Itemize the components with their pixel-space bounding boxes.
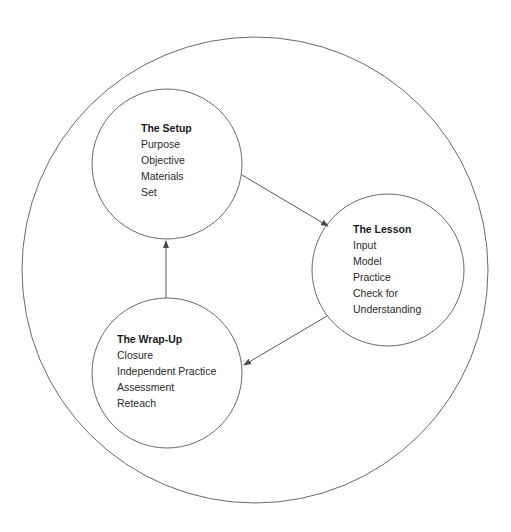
wrapup-item: Closure (117, 347, 216, 363)
wrapup-item: Assessment (117, 379, 216, 395)
wrapup-item: Independent Practice (117, 363, 216, 379)
setup-item: Objective (141, 152, 192, 168)
lesson-item: Practice (353, 269, 421, 285)
setup-item: Purpose (141, 136, 192, 152)
lesson-title: The Lesson (353, 221, 421, 237)
lesson-item: Check for (353, 285, 421, 301)
cycle-diagram (0, 0, 511, 532)
arrow-setup-to-lesson (242, 175, 328, 226)
lesson-item: Input (353, 237, 421, 253)
wrapup-title: The Wrap-Up (117, 331, 216, 347)
lesson-item: Understanding (353, 301, 421, 317)
wrapup-item: Reteach (117, 395, 216, 411)
lesson-node: The Lesson Input Model Practice Check fo… (353, 221, 421, 317)
setup-item: Materials (141, 168, 192, 184)
setup-node: The Setup Purpose Objective Materials Se… (141, 120, 192, 200)
arrow-lesson-to-wrapup (244, 316, 327, 365)
setup-title: The Setup (141, 120, 192, 136)
setup-item: Set (141, 184, 192, 200)
wrapup-node: The Wrap-Up Closure Independent Practice… (117, 331, 216, 411)
lesson-item: Model (353, 253, 421, 269)
